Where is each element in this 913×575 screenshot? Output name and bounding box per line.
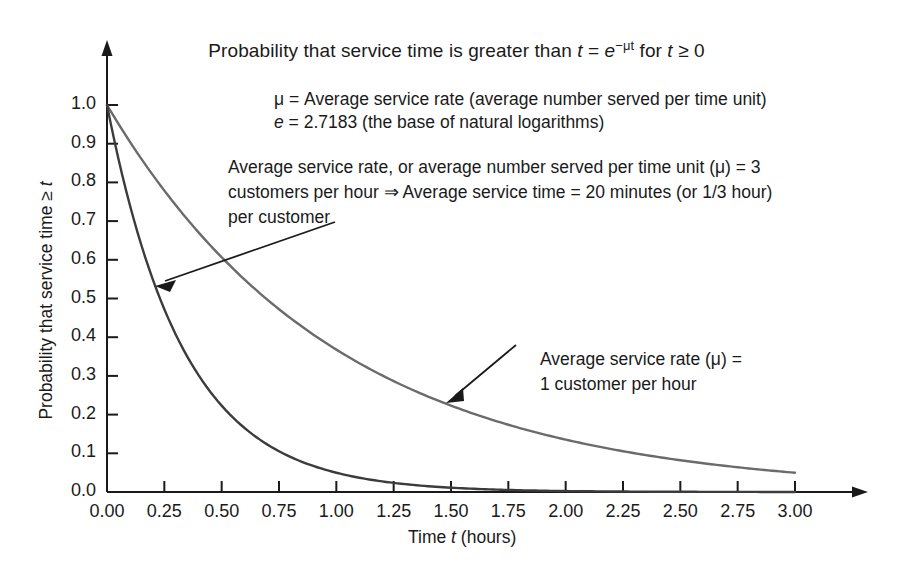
y-tick-label: 0.0 — [50, 480, 96, 501]
y-tick-label: 0.5 — [50, 287, 96, 308]
mu1-annotation-arrow-head-icon — [446, 388, 464, 403]
curve-mu-3 — [107, 105, 795, 492]
y-tick-marks — [107, 105, 118, 492]
x-tick-label: 3.00 — [764, 501, 826, 522]
plot-area — [0, 0, 913, 575]
x-tick-label: 0.25 — [133, 501, 195, 522]
chart-figure: Probability that service time is greater… — [0, 0, 913, 575]
mu3-annotation-arrow-line — [165, 222, 335, 281]
y-tick-label: 0.8 — [50, 170, 96, 191]
x-tick-label: 2.50 — [649, 501, 711, 522]
y-tick-label: 0.1 — [50, 441, 96, 462]
mu1-annotation-arrow-line — [455, 345, 516, 396]
x-tick-label: 1.50 — [420, 501, 482, 522]
x-tick-label: 2.00 — [535, 501, 597, 522]
mu3-annotation-arrow-head-icon — [155, 280, 176, 292]
x-tick-label: 1.25 — [363, 501, 425, 522]
curve-mu-1 — [107, 105, 795, 473]
y-tick-label: 0.3 — [50, 364, 96, 385]
annotation-leader-lines — [155, 222, 516, 403]
x-tick-label: 0.75 — [248, 501, 310, 522]
y-tick-label: 1.0 — [50, 93, 96, 114]
y-tick-label: 0.2 — [50, 403, 96, 424]
x-tick-label: 1.00 — [305, 501, 367, 522]
y-tick-label: 0.9 — [50, 132, 96, 153]
y-tick-label: 0.6 — [50, 248, 96, 269]
y-tick-label: 0.4 — [50, 325, 96, 346]
y-axis-arrow-icon — [102, 40, 113, 56]
x-tick-label: 2.25 — [592, 501, 654, 522]
x-tick-label: 2.75 — [707, 501, 769, 522]
x-tick-label: 0.50 — [191, 501, 253, 522]
axes — [102, 40, 869, 498]
x-axis-arrow-icon — [852, 487, 868, 498]
x-tick-label: 0.00 — [76, 501, 138, 522]
x-tick-label: 1.75 — [477, 501, 539, 522]
data-curves — [107, 105, 795, 492]
y-tick-label: 0.7 — [50, 209, 96, 230]
